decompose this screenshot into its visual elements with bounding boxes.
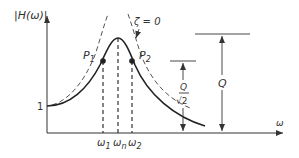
omega2-label: ω2 xyxy=(128,137,141,151)
omega1-label: ω1 xyxy=(97,137,110,151)
undamped-curve xyxy=(52,14,190,108)
half-power-numerator: Q xyxy=(180,82,187,92)
damping-label: ζ = 0 xyxy=(133,16,161,27)
half-power-denominator: √2 xyxy=(176,96,187,106)
damping-leader xyxy=(136,29,139,38)
point-p2 xyxy=(129,58,135,64)
x-axis-label: ω xyxy=(276,118,284,128)
p2-label: P2 xyxy=(139,49,151,64)
y-axis-label: |H(ω)| xyxy=(14,9,47,22)
resonance-diagram: |H(ω)| ω 1 P1 P2 ζ = 0 xyxy=(0,0,299,158)
point-p1 xyxy=(100,58,106,64)
baseline-label: 1 xyxy=(37,101,43,112)
p1-label: P1 xyxy=(83,49,95,64)
peak-label: Q xyxy=(218,77,227,90)
omegan-label: ωn xyxy=(113,137,126,151)
frequency-markers xyxy=(103,38,132,133)
